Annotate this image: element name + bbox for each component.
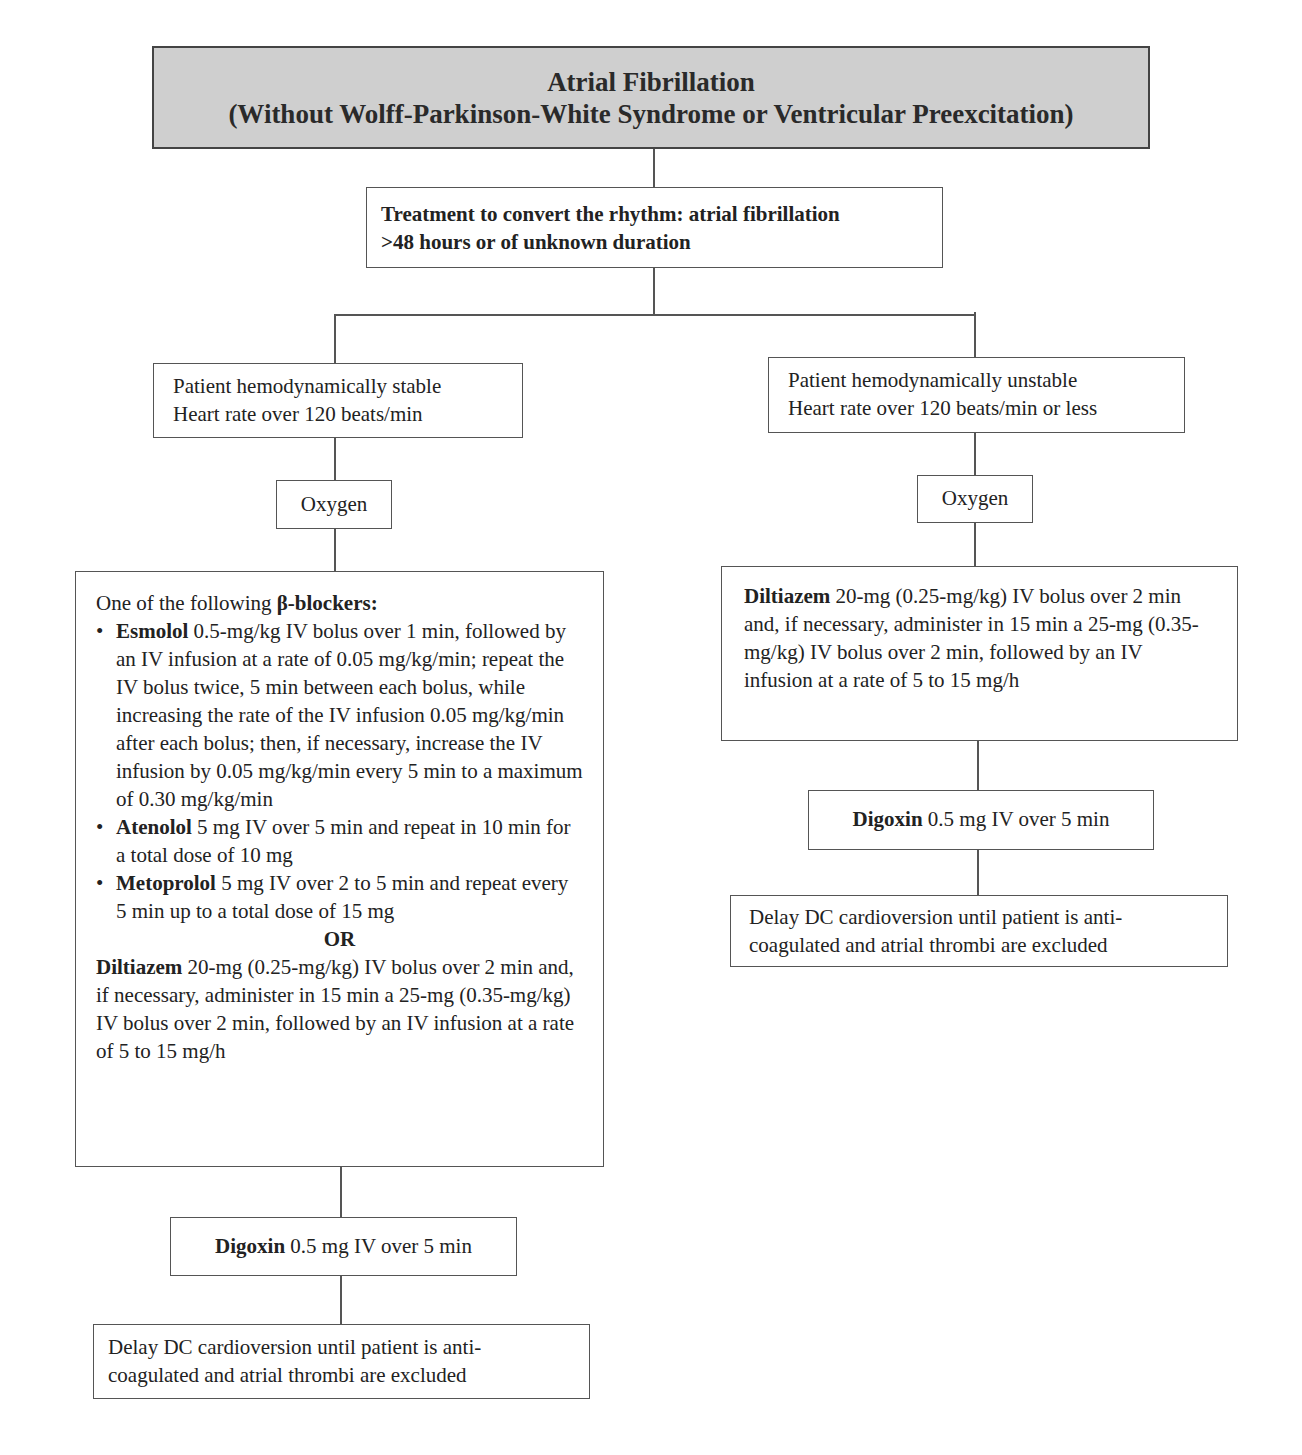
left-digoxin-box: Digoxin 0.5 mg IV over 5 min bbox=[170, 1217, 517, 1276]
treatment-line-2: >48 hours or of unknown duration bbox=[381, 228, 928, 256]
right-oxygen-box: Oxygen bbox=[917, 475, 1033, 523]
connector-left-condition-oxygen bbox=[334, 437, 336, 481]
bullet-icon: • bbox=[96, 869, 116, 897]
digoxin-name: Digoxin bbox=[215, 1234, 285, 1258]
drug-name: Esmolol bbox=[116, 619, 188, 643]
left-delay-line-1: Delay DC cardioversion until patient is … bbox=[108, 1333, 575, 1361]
connector-split-horizontal bbox=[334, 314, 975, 316]
left-drugs-box: One of the following β-blockers: •Esmolo… bbox=[75, 571, 604, 1167]
right-delay-line-1: Delay DC cardioversion until patient is … bbox=[749, 903, 1209, 931]
connector-right-drug-digoxin bbox=[977, 740, 979, 792]
drug-item-diltiazem-left: Diltiazem 20-mg (0.25-mg/kg) IV bolus ov… bbox=[96, 953, 583, 1065]
title-box: Atrial Fibrillation (Without Wolff-Parki… bbox=[152, 46, 1150, 149]
left-oxygen-label: Oxygen bbox=[301, 492, 368, 516]
digoxin-dosage: 0.5 mg IV over 5 min bbox=[923, 807, 1110, 831]
digoxin-dosage: 0.5 mg IV over 5 min bbox=[285, 1234, 472, 1258]
left-condition-line-1: Patient hemodynamically stable bbox=[173, 372, 503, 400]
drug-item-esmolol: •Esmolol 0.5-mg/kg IV bolus over 1 min, … bbox=[96, 617, 583, 813]
right-delay-line-2: coagulated and atrial thrombi are exclud… bbox=[749, 931, 1209, 959]
digoxin-name: Digoxin bbox=[853, 807, 923, 831]
right-digoxin-box: Digoxin 0.5 mg IV over 5 min bbox=[808, 790, 1154, 850]
connector-right-oxygen-drug bbox=[974, 522, 976, 566]
treatment-box: Treatment to convert the rhythm: atrial … bbox=[366, 187, 943, 268]
right-condition-line-1: Patient hemodynamically unstable bbox=[788, 366, 1165, 394]
right-drug-box: Diltiazem 20-mg (0.25-mg/kg) IV bolus ov… bbox=[721, 566, 1238, 741]
beta-blockers-heading: β-blockers: bbox=[277, 591, 378, 615]
connector-right-digoxin-delay bbox=[977, 849, 979, 896]
right-condition-line-2: Heart rate over 120 beats/min or less bbox=[788, 394, 1165, 422]
title-line-2: (Without Wolff-Parkinson-White Syndrome … bbox=[154, 98, 1148, 130]
left-condition-line-2: Heart rate over 120 beats/min bbox=[173, 400, 503, 428]
left-delay-box: Delay DC cardioversion until patient is … bbox=[93, 1324, 590, 1399]
bullet-icon: • bbox=[96, 617, 116, 645]
connector-treatment-split bbox=[653, 267, 655, 315]
connector-title-treatment bbox=[653, 148, 655, 188]
left-oxygen-box: Oxygen bbox=[276, 480, 392, 529]
drug-name: Atenolol bbox=[116, 815, 192, 839]
or-divider: OR bbox=[96, 925, 583, 953]
drug-name: Diltiazem bbox=[96, 955, 182, 979]
title-line-1: Atrial Fibrillation bbox=[154, 66, 1148, 98]
treatment-line-1: Treatment to convert the rhythm: atrial … bbox=[381, 200, 928, 228]
right-condition-box: Patient hemodynamically unstable Heart r… bbox=[768, 357, 1185, 433]
drug-item-atenolol: •Atenolol 5 mg IV over 5 min and repeat … bbox=[96, 813, 583, 869]
drug-dosage: 0.5-mg/kg IV bolus over 1 min, followed … bbox=[116, 619, 583, 811]
connector-left-oxygen-drugs bbox=[334, 528, 336, 572]
beta-blockers-intro: One of the following β-blockers: bbox=[96, 589, 583, 617]
bullet-icon: • bbox=[96, 813, 116, 841]
connector-right-condition-oxygen bbox=[974, 432, 976, 476]
connector-split-left bbox=[334, 314, 336, 364]
connector-split-right bbox=[974, 312, 976, 358]
connector-left-drugs-digoxin bbox=[340, 1166, 342, 1218]
left-delay-line-2: coagulated and atrial thrombi are exclud… bbox=[108, 1361, 575, 1389]
right-delay-box: Delay DC cardioversion until patient is … bbox=[730, 895, 1228, 967]
drug-name: Metoprolol bbox=[116, 871, 216, 895]
drug-item-metoprolol: •Metoprolol 5 mg IV over 2 to 5 min and … bbox=[96, 869, 583, 925]
right-oxygen-label: Oxygen bbox=[942, 486, 1009, 510]
left-condition-box: Patient hemodynamically stable Heart rat… bbox=[153, 363, 523, 438]
drug-name: Diltiazem bbox=[744, 584, 830, 608]
connector-left-digoxin-delay bbox=[340, 1275, 342, 1325]
